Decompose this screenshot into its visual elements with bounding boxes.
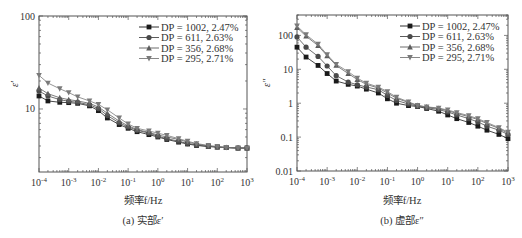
triangle-up-marker-icon <box>36 85 42 90</box>
y-axis-label: ε′ <box>9 80 20 87</box>
legend-label: DP = 1002, 2.47% <box>422 21 500 32</box>
circle-marker-icon <box>355 82 360 87</box>
square-marker-icon <box>147 25 152 30</box>
chart-imaginary-permittivity: 10-410-310-210-11001011021030.010.111010… <box>261 15 515 227</box>
legend-label: DP = 1002, 2.47% <box>161 22 239 33</box>
square-marker-icon <box>37 94 42 99</box>
legend-label: DP = 295, 2.71% <box>422 52 495 63</box>
x-tick-label: 10-1 <box>380 175 396 187</box>
circle-marker-icon <box>146 35 151 40</box>
triangle-down-marker-icon <box>57 86 63 91</box>
legend-label: DP = 295, 2.71% <box>161 53 234 64</box>
legend-label: DP = 611, 2.63% <box>161 32 233 43</box>
legend-item: DP = 356, 2.68% <box>400 42 495 53</box>
legend-label: DP = 611, 2.63% <box>422 31 494 42</box>
triangle-down-marker-icon <box>66 90 72 95</box>
x-tick-label: 10-3 <box>61 176 77 188</box>
x-axis-label: 频率f/Hz <box>383 194 422 206</box>
y-tick-label: 100 <box>278 30 293 41</box>
y-tick-label: 100 <box>20 11 35 22</box>
circle-marker-icon <box>294 34 299 39</box>
x-tick-label: 10-4 <box>289 175 305 187</box>
circle-marker-icon <box>346 79 351 84</box>
chart-real-permittivity: 10-410-310-210-110010110210310100DP = 10… <box>9 11 254 228</box>
square-marker-icon <box>334 79 339 84</box>
square-marker-icon <box>316 63 321 68</box>
y-tick-label: 0.01 <box>276 166 294 177</box>
square-marker-icon <box>325 71 330 76</box>
square-marker-icon <box>408 24 413 29</box>
circle-marker-icon <box>325 63 330 68</box>
x-tick-label: 102 <box>471 175 485 187</box>
y-tick-label: 0.1 <box>281 132 294 143</box>
x-tick-label: 10-2 <box>91 176 107 188</box>
legend: DP = 1002, 2.47%DP = 611, 2.63%DP = 356,… <box>139 22 239 65</box>
circle-marker-icon <box>407 34 412 39</box>
square-marker-icon <box>46 99 51 104</box>
x-tick-label: 103 <box>240 176 254 188</box>
x-tick-label: 100 <box>411 175 425 187</box>
series-triangle-up <box>36 85 250 150</box>
x-tick-label: 103 <box>501 175 515 187</box>
x-axis-label: 频率f/Hz <box>124 194 163 206</box>
x-tick-label: 101 <box>441 175 455 187</box>
legend-item: DP = 1002, 2.47% <box>400 21 500 32</box>
circle-marker-icon <box>334 73 339 78</box>
y-tick-label: 10 <box>25 103 35 114</box>
x-tick-label: 10-1 <box>120 176 136 188</box>
figure: 10-410-310-210-110010110210310100DP = 10… <box>0 0 522 238</box>
triangle-up-marker-icon <box>45 91 51 96</box>
y-tick-label: 10 <box>283 64 293 75</box>
panel-caption: (a) 实部ε′ <box>123 214 164 227</box>
legend-item: DP = 611, 2.63% <box>400 31 494 42</box>
square-marker-icon <box>295 45 300 50</box>
legend-item: DP = 611, 2.63% <box>139 32 233 43</box>
legend: DP = 1002, 2.47%DP = 611, 2.63%DP = 356,… <box>400 21 500 64</box>
legend-label: DP = 356, 2.68% <box>422 42 495 53</box>
y-axis-label: ε″ <box>261 78 272 87</box>
figure-canvas: 10-410-310-210-110010110210310100DP = 10… <box>0 0 522 238</box>
x-tick-label: 10-4 <box>31 176 47 188</box>
x-tick-label: 102 <box>211 176 225 188</box>
x-tick-label: 10-2 <box>349 175 365 187</box>
legend-item: DP = 295, 2.71% <box>139 53 234 64</box>
square-marker-icon <box>304 55 309 60</box>
triangle-down-marker-icon <box>303 32 309 37</box>
legend-item: DP = 295, 2.71% <box>400 52 495 63</box>
x-tick-label: 100 <box>151 176 165 188</box>
y-tick-label: 1 <box>288 98 293 109</box>
circle-marker-icon <box>303 45 308 50</box>
series-triangle-down <box>36 73 250 151</box>
x-tick-label: 101 <box>181 176 195 188</box>
legend-item: DP = 356, 2.68% <box>139 43 234 54</box>
circle-marker-icon <box>315 54 320 59</box>
legend-label: DP = 356, 2.68% <box>161 43 234 54</box>
triangle-down-marker-icon <box>45 81 51 86</box>
x-tick-label: 10-3 <box>319 175 335 187</box>
legend-item: DP = 1002, 2.47% <box>139 22 239 33</box>
panel-caption: (b) 虚部ε″ <box>380 214 424 227</box>
